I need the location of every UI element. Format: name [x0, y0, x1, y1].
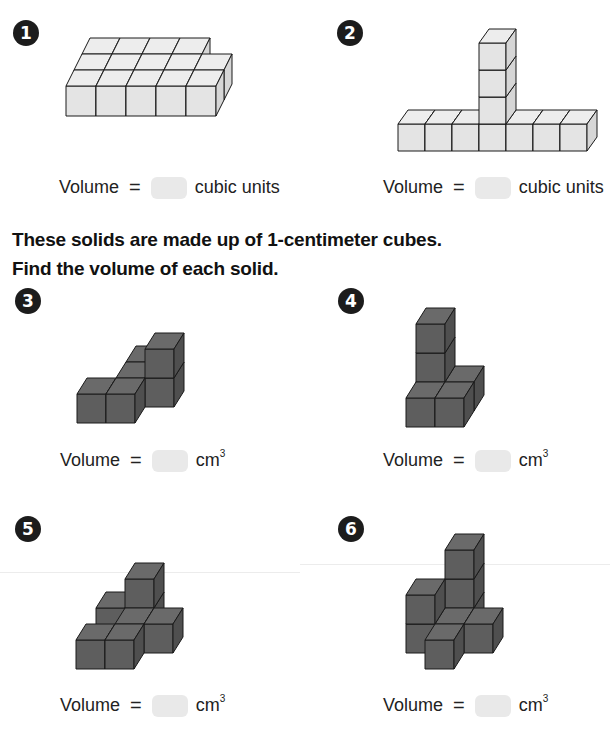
cube-front-face [425, 124, 452, 151]
unit-text: cm [519, 695, 543, 715]
volume-label: Volume [383, 450, 443, 471]
cube-front-face [416, 324, 445, 353]
cube-front-face [186, 86, 216, 116]
cube-front-face [479, 43, 506, 70]
answer-input-4[interactable] [475, 450, 511, 472]
unit-superscript: 3 [220, 693, 226, 704]
cube-front-face [464, 624, 493, 653]
unit-label: cm3 [196, 450, 226, 471]
unit-text: cm [196, 695, 220, 715]
cube-front-face [126, 86, 156, 116]
equals-sign: = [130, 694, 142, 717]
cube-front-face [533, 124, 560, 151]
unit-text: cm [519, 450, 543, 470]
unit-label: cm3 [519, 450, 549, 471]
cube-solid-1 [0, 0, 610, 740]
cube-front-face [435, 398, 464, 427]
unit-label: cm3 [519, 695, 549, 716]
answer-line-1: Volume = cubic units [59, 176, 280, 199]
cube-front-face [398, 124, 425, 151]
unit-superscript: 3 [543, 693, 549, 704]
answer-line-6: Volume = cm3 [383, 694, 548, 717]
cube-front-face [144, 624, 173, 653]
cube-front-face [156, 86, 186, 116]
answer-input-5[interactable] [152, 695, 188, 717]
cube-front-face [506, 124, 533, 151]
volume-label: Volume [383, 177, 443, 198]
cube-front-face [66, 86, 96, 116]
answer-input-3[interactable] [152, 450, 188, 472]
answer-line-5: Volume = cm3 [60, 694, 225, 717]
cube-front-face [406, 398, 435, 427]
answer-input-6[interactable] [475, 695, 511, 717]
unit-label: cubic units [519, 177, 604, 198]
cube-front-face [479, 70, 506, 97]
unit-text: cubic units [519, 177, 604, 197]
unit-label: cubic units [195, 177, 280, 198]
answer-input-1[interactable] [151, 177, 187, 199]
answer-line-4: Volume = cm3 [383, 449, 548, 472]
unit-label: cm3 [196, 695, 226, 716]
cube-front-face [125, 579, 154, 608]
cube-front-face [425, 640, 454, 669]
volume-label: Volume [60, 450, 120, 471]
cube-front-face [445, 579, 474, 608]
volume-label: Volume [59, 177, 119, 198]
unit-superscript: 3 [543, 448, 549, 459]
cube-front-face [77, 394, 106, 423]
equals-sign: = [453, 694, 465, 717]
unit-text: cubic units [195, 177, 280, 197]
cube-front-face [560, 124, 587, 151]
cube-front-face [76, 640, 105, 669]
equals-sign: = [130, 449, 142, 472]
cube-front-face [96, 86, 126, 116]
cube-front-face [445, 550, 474, 579]
answer-line-3: Volume = cm3 [60, 449, 225, 472]
cube-front-face [452, 124, 479, 151]
equals-sign: = [129, 176, 141, 199]
cube-front-face [105, 640, 134, 669]
answer-line-2: Volume = cubic units [383, 176, 604, 199]
cube-front-face [406, 595, 435, 624]
cube-front-face [145, 349, 174, 378]
cube-front-face [479, 124, 506, 151]
equals-sign: = [453, 176, 465, 199]
cube-front-face [416, 353, 445, 382]
volume-label: Volume [383, 695, 443, 716]
cube-front-face [145, 378, 174, 407]
volume-label: Volume [60, 695, 120, 716]
equals-sign: = [453, 449, 465, 472]
answer-input-2[interactable] [475, 177, 511, 199]
unit-superscript: 3 [220, 448, 226, 459]
cube-front-face [479, 97, 506, 124]
unit-text: cm [196, 450, 220, 470]
cube-front-face [106, 394, 135, 423]
